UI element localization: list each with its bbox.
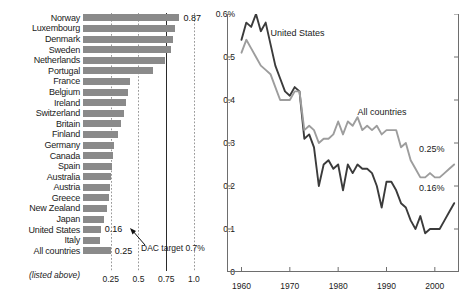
bar-fill xyxy=(83,89,128,96)
line-x-tick-label: 1980 xyxy=(329,282,348,291)
line-chart-x-axis-labels: 19601970198019902000 xyxy=(227,282,459,294)
bar-category-label: Portugal xyxy=(0,67,83,76)
bar-row: Canada xyxy=(0,151,205,162)
bar-category-label: Germany xyxy=(0,141,83,150)
bar-fill xyxy=(83,36,173,43)
bar-category-label: Japan xyxy=(0,215,83,224)
bar-fill xyxy=(83,184,110,191)
bar-row: Switzerland xyxy=(0,108,205,119)
bar-category-label: New Zealand xyxy=(0,204,83,213)
bar-chart-panel: Norway0.87LuxembourgDenmarkSwedenNetherl… xyxy=(0,0,205,308)
line-annotation: United States xyxy=(271,28,325,38)
bar-fill xyxy=(83,25,175,32)
bar-category-label: Belgium xyxy=(0,88,83,97)
bar-row: Norway0.87 xyxy=(0,13,205,24)
bar-category-label: Norway xyxy=(0,14,83,23)
bar-row: Japan xyxy=(0,214,205,225)
line-annotation: All countries xyxy=(358,107,407,117)
bar-track xyxy=(83,140,205,151)
bar-fill xyxy=(83,14,179,21)
bar-fill xyxy=(83,78,130,85)
bar-fill xyxy=(83,57,165,64)
line-chart-plot xyxy=(227,14,459,272)
bar-track xyxy=(83,55,205,66)
bar-track xyxy=(83,87,205,98)
bar-fill xyxy=(83,226,101,233)
bar-fill xyxy=(83,194,109,201)
bar-fill xyxy=(83,110,124,117)
bar-track xyxy=(83,214,205,225)
bar-row: Spain xyxy=(0,161,205,172)
bar-category-label: Austria xyxy=(0,183,83,192)
bar-track xyxy=(83,161,205,172)
bar-track xyxy=(83,34,205,45)
bar-fill xyxy=(83,46,171,53)
bar-category-label: Italy xyxy=(0,236,83,245)
bar-track xyxy=(83,172,205,183)
bar-row: France xyxy=(0,77,205,88)
bar-category-label: Sweden xyxy=(0,46,83,55)
bar-fill xyxy=(83,237,100,244)
bar-track xyxy=(83,130,205,141)
bar-row: Australia xyxy=(0,172,205,183)
bar-chart-x-axis: 0.250.50.751.0 xyxy=(0,275,205,289)
bar-row: Ireland xyxy=(0,98,205,109)
bar-x-tick-label: 1.0 xyxy=(188,275,200,284)
bar-chart-rows: Norway0.87LuxembourgDenmarkSwedenNetherl… xyxy=(0,13,205,257)
bar-track xyxy=(83,193,205,204)
bar-fill xyxy=(83,120,121,127)
bar-fill xyxy=(83,152,113,159)
bar-track: 0.87 xyxy=(83,13,205,24)
line-x-tick-label: 1970 xyxy=(280,282,299,291)
bar-value-label: 0.25 xyxy=(115,247,133,256)
bar-track xyxy=(83,45,205,56)
bar-track xyxy=(83,183,205,194)
bar-track xyxy=(83,108,205,119)
bar-category-label: Denmark xyxy=(0,35,83,44)
line-chart-panel: 00.10.20.30.40.50.6% 1960197019801990200… xyxy=(205,0,463,308)
bar-value-label: 0.87 xyxy=(183,14,201,23)
bar-fill xyxy=(83,163,112,170)
bar-fill xyxy=(83,67,153,74)
bar-category-label: Luxembourg xyxy=(0,24,83,33)
bar-category-label: Australia xyxy=(0,173,83,182)
bar-fill xyxy=(83,173,111,180)
bar-value-label: 0.16 xyxy=(105,225,123,234)
line-annotation: 0.16% xyxy=(419,183,445,193)
bar-track xyxy=(83,98,205,109)
bar-category-label: Ireland xyxy=(0,99,83,108)
bar-category-label: United States xyxy=(0,226,83,235)
bar-category-label: Greece xyxy=(0,194,83,203)
bar-category-label: France xyxy=(0,77,83,86)
bar-row: Belgium xyxy=(0,87,205,98)
line-annotation: 0.25% xyxy=(419,144,445,154)
bar-row: United States0.16 xyxy=(0,225,205,236)
bar-row: New Zealand xyxy=(0,204,205,215)
bar-track xyxy=(83,151,205,162)
line-x-tick-label: 2000 xyxy=(425,282,444,291)
bar-fill xyxy=(83,142,114,149)
bar-track xyxy=(83,66,205,77)
bar-row: Finland xyxy=(0,130,205,141)
bar-fill xyxy=(83,131,118,138)
bar-fill xyxy=(83,216,104,223)
bar-category-label: Canada xyxy=(0,152,83,161)
bar-x-tick-label: 0.25 xyxy=(102,275,119,284)
bar-row: Sweden xyxy=(0,45,205,56)
bar-category-label: Finland xyxy=(0,130,83,139)
bar-fill xyxy=(83,205,107,212)
bar-fill xyxy=(83,99,126,106)
bar-category-label: Netherlands xyxy=(0,56,83,65)
bar-row: Portugal xyxy=(0,66,205,77)
bar-category-label: All countries xyxy=(0,247,83,256)
bar-track xyxy=(83,77,205,88)
bar-row: Germany xyxy=(0,140,205,151)
bar-row: Denmark xyxy=(0,34,205,45)
dac-target-label: DAC target 0.7% xyxy=(141,243,205,253)
line-x-tick-label: 1990 xyxy=(377,282,396,291)
bar-x-tick-label: 0.5 xyxy=(133,275,145,284)
bar-row: Austria xyxy=(0,183,205,194)
bar-track xyxy=(83,24,205,35)
bar-x-tick-label: 0.75 xyxy=(158,275,175,284)
bar-category-label: Switzerland xyxy=(0,109,83,118)
